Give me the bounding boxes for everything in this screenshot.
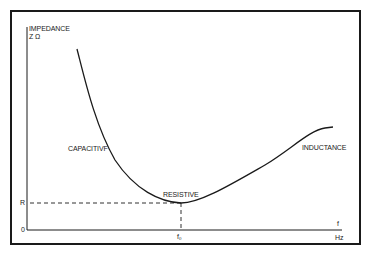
y-tick-r: R (20, 199, 25, 207)
capacitive-label: CAPACITIVF (68, 145, 108, 153)
x-tick-f0: f₀ (177, 233, 182, 241)
inductance-label: INDUCTANCE (302, 144, 346, 152)
y-tick-zero: 0 (21, 226, 25, 234)
x-axis-f: f (337, 220, 339, 228)
resistive-label: RESISTIVE (163, 191, 199, 199)
y-axis-unit: Z Ω (29, 33, 40, 41)
impedance-plot (0, 0, 370, 256)
impedance-curve (77, 49, 333, 203)
x-axis-unit: Hz (335, 234, 343, 242)
y-axis-title: IMPEDANCE (29, 25, 70, 33)
